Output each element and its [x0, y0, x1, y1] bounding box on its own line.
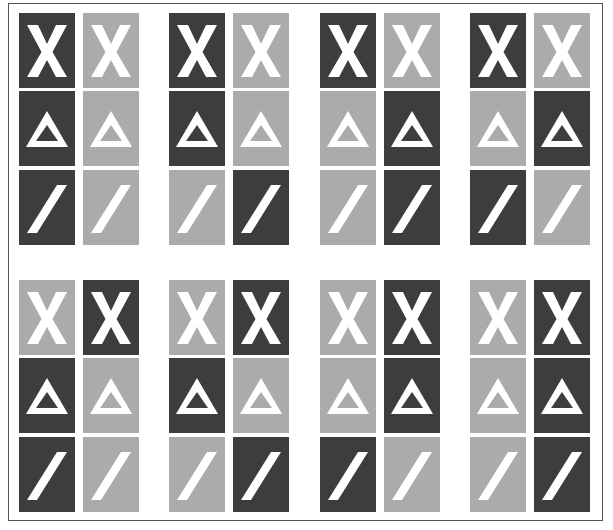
tile-triangle-dark [534, 91, 590, 166]
tile-triangle-light [470, 91, 526, 166]
triangle-icon [19, 358, 75, 433]
tile-x-light [384, 13, 440, 88]
triangle-icon [169, 91, 225, 166]
slash-icon [470, 437, 526, 512]
tile-x-light [534, 13, 590, 88]
tile-x-light [233, 13, 289, 88]
tile-slash-light [169, 437, 225, 512]
x-icon [19, 13, 75, 88]
tile-x-dark [320, 13, 376, 88]
tile-x-dark [470, 13, 526, 88]
x-icon [384, 280, 440, 355]
tile-triangle-dark [534, 358, 590, 433]
x-icon [384, 13, 440, 88]
tile-triangle-light [320, 91, 376, 166]
tile-x-dark [19, 13, 75, 88]
triangle-icon [320, 358, 376, 433]
tile-x-light [169, 280, 225, 355]
triangle-icon [83, 358, 139, 433]
tile-slash-dark [233, 170, 289, 245]
slash-icon [169, 170, 225, 245]
tile-triangle-light [83, 91, 139, 166]
x-icon [83, 280, 139, 355]
slash-icon [470, 170, 526, 245]
tile-x-light [19, 280, 75, 355]
x-icon [534, 280, 590, 355]
x-icon [470, 13, 526, 88]
tile-triangle-dark [169, 358, 225, 433]
slash-icon [83, 170, 139, 245]
tile-slash-dark [233, 437, 289, 512]
triangle-icon [19, 91, 75, 166]
tile-slash-dark [384, 170, 440, 245]
tile-slash-dark [19, 437, 75, 512]
x-icon [19, 280, 75, 355]
tile-triangle-dark [19, 91, 75, 166]
triangle-icon [470, 91, 526, 166]
tile-triangle-light [233, 91, 289, 166]
triangle-icon [169, 358, 225, 433]
slash-icon [233, 170, 289, 245]
tile-triangle-dark [384, 91, 440, 166]
tile-slash-dark [320, 437, 376, 512]
tile-triangle-dark [169, 91, 225, 166]
tile-x-dark [169, 13, 225, 88]
tile-slash-dark [534, 437, 590, 512]
triangle-icon [233, 91, 289, 166]
x-icon [470, 280, 526, 355]
x-icon [534, 13, 590, 88]
slash-icon [19, 170, 75, 245]
triangle-icon [233, 358, 289, 433]
tile-x-dark [83, 280, 139, 355]
tile-x-light [83, 13, 139, 88]
x-icon [233, 280, 289, 355]
tile-slash-light [169, 170, 225, 245]
tile-triangle-light [320, 358, 376, 433]
x-icon [169, 280, 225, 355]
triangle-icon [384, 91, 440, 166]
x-icon [320, 13, 376, 88]
tile-triangle-light [470, 358, 526, 433]
slash-icon [534, 437, 590, 512]
triangle-icon [320, 91, 376, 166]
triangle-icon [534, 91, 590, 166]
tile-slash-light [470, 437, 526, 512]
slash-icon [169, 437, 225, 512]
slash-icon [233, 437, 289, 512]
tile-triangle-dark [384, 358, 440, 433]
tile-x-dark [534, 280, 590, 355]
slash-icon [384, 437, 440, 512]
tile-slash-light [534, 170, 590, 245]
x-icon [169, 13, 225, 88]
tile-x-dark [233, 280, 289, 355]
tile-triangle-light [233, 358, 289, 433]
tile-slash-light [83, 170, 139, 245]
triangle-icon [83, 91, 139, 166]
tile-x-light [470, 280, 526, 355]
tile-slash-dark [19, 170, 75, 245]
slash-icon [19, 437, 75, 512]
tile-slash-dark [470, 170, 526, 245]
triangle-icon [534, 358, 590, 433]
slash-icon [320, 170, 376, 245]
tile-slash-light [320, 170, 376, 245]
tile-triangle-dark [19, 358, 75, 433]
slash-icon [384, 170, 440, 245]
tile-triangle-light [83, 358, 139, 433]
x-icon [83, 13, 139, 88]
tile-x-light [320, 280, 376, 355]
tile-slash-light [384, 437, 440, 512]
triangle-icon [470, 358, 526, 433]
slash-icon [534, 170, 590, 245]
x-icon [233, 13, 289, 88]
tile-x-dark [384, 280, 440, 355]
x-icon [320, 280, 376, 355]
slash-icon [83, 437, 139, 512]
triangle-icon [384, 358, 440, 433]
slash-icon [320, 437, 376, 512]
tile-slash-light [83, 437, 139, 512]
